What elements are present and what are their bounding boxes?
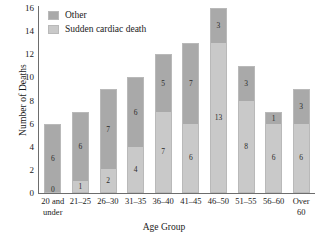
y-tick-label: 12 <box>18 50 34 59</box>
y-tick-label: 4 <box>18 142 34 151</box>
y-tick-label: 0 <box>18 189 34 198</box>
bar-segment-value-label: 6 <box>134 109 138 117</box>
x-axis-line <box>38 193 315 194</box>
bar-segment-value-label: 1 <box>79 183 83 191</box>
legend-item-label: Other <box>65 10 87 20</box>
y-tick-label: 16 <box>18 4 34 13</box>
bar-segment-value-label: 6 <box>272 154 276 162</box>
x-axis-title: Age Group <box>39 222 289 232</box>
bar-segment-value-label: 3 <box>217 22 221 30</box>
bar-segment-sudden-cardiac-death[interactable]: 6 <box>266 124 281 192</box>
bar-stack[interactable]: 57 <box>155 54 172 193</box>
bar-segment-value-label: 2 <box>106 177 110 185</box>
legend-item[interactable]: Sudden cardiac death <box>48 24 146 34</box>
bar-segment-value-label: 7 <box>161 148 165 156</box>
bar-segment-sudden-cardiac-death[interactable]: 6 <box>294 124 309 192</box>
bar-segment-value-label: 1 <box>272 115 276 123</box>
bar-stack[interactable]: 72 <box>100 89 117 193</box>
bar-segment-value-label: 6 <box>189 154 193 162</box>
bar-segment-value-label: 6 <box>299 154 303 162</box>
bar-segment-value-label: 0 <box>51 186 55 194</box>
bar-segment-sudden-cardiac-death[interactable]: 8 <box>239 101 254 192</box>
y-tick-label: 2 <box>18 165 34 174</box>
bar-segment-value-label: 7 <box>189 80 193 88</box>
chart-legend: OtherSudden cardiac death <box>48 10 146 38</box>
bar-stack[interactable]: 38 <box>238 66 255 193</box>
bar-stack[interactable]: 36 <box>293 89 310 193</box>
legend-color-swatch <box>48 25 59 34</box>
y-axis-tick-labels: 0246810121416 <box>18 8 34 193</box>
bar-segment-value-label: 6 <box>79 143 83 151</box>
bar-segment-other[interactable]: 6 <box>73 113 88 181</box>
bar-segment-other[interactable]: 3 <box>239 67 254 101</box>
bar-segment-other[interactable]: 3 <box>211 9 226 43</box>
bar-segment-other[interactable]: 7 <box>101 90 116 169</box>
bar-segment-value-label: 13 <box>215 114 223 122</box>
bar-segment-other[interactable]: 3 <box>294 90 309 124</box>
bar-segment-other[interactable]: 7 <box>183 44 198 124</box>
legend-item[interactable]: Other <box>48 10 146 20</box>
bar-segment-sudden-cardiac-death[interactable]: 13 <box>211 43 226 192</box>
bar-stack[interactable]: 76 <box>182 43 199 193</box>
bar-segment-value-label: 6 <box>51 155 55 163</box>
y-tick-label: 14 <box>18 27 34 36</box>
bar-segment-sudden-cardiac-death[interactable]: 6 <box>183 124 198 192</box>
bar-segment-sudden-cardiac-death[interactable]: 4 <box>128 147 143 192</box>
bar-segment-sudden-cardiac-death[interactable]: 1 <box>73 181 88 192</box>
bar-segment-sudden-cardiac-death[interactable]: 2 <box>101 169 116 192</box>
bar-segment-value-label: 8 <box>244 143 248 151</box>
bar-segment-value-label: 3 <box>299 103 303 111</box>
y-tick-label: 10 <box>18 73 34 82</box>
stacked-bar-chart: Number of Deaths 0246810121416 606172645… <box>0 0 321 249</box>
bar-segment-value-label: 5 <box>161 80 165 88</box>
bar-segment-value-label: 3 <box>244 80 248 88</box>
legend-item-label: Sudden cardiac death <box>65 24 146 34</box>
bar-segment-other[interactable]: 5 <box>156 55 171 112</box>
bar-segment-value-label: 4 <box>134 166 138 174</box>
bar-segment-value-label: 7 <box>106 126 110 134</box>
x-tick-label: Over 60 <box>281 196 321 218</box>
bar-segment-sudden-cardiac-death[interactable]: 7 <box>156 112 171 192</box>
y-tick-label: 8 <box>18 96 34 105</box>
bar-segment-other[interactable]: 6 <box>45 125 60 192</box>
y-tick-label: 6 <box>18 119 34 128</box>
bar-segment-other[interactable]: 1 <box>266 113 281 124</box>
legend-color-swatch <box>48 11 59 20</box>
bar-stack[interactable]: 61 <box>72 112 89 193</box>
bar-stack[interactable]: 60 <box>44 124 61 193</box>
bar-stack[interactable]: 16 <box>265 112 282 193</box>
bar-stack[interactable]: 64 <box>127 77 144 193</box>
bar-segment-other[interactable]: 6 <box>128 78 143 146</box>
bar-stack[interactable]: 313 <box>210 8 227 193</box>
